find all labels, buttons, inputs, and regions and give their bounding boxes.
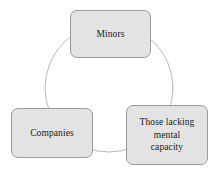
node-minors: Minors (70, 10, 151, 58)
node-minors-label: Minors (93, 28, 127, 41)
node-those-lacking-mental-capacity: Those lacking mental capacity (126, 105, 208, 165)
cycle-diagram: Minors Companies Those lacking mental ca… (0, 0, 218, 180)
node-companies: Companies (11, 108, 93, 158)
node-those-lacking-mental-capacity-label: Those lacking mental capacity (137, 116, 198, 154)
node-companies-label: Companies (27, 127, 77, 140)
